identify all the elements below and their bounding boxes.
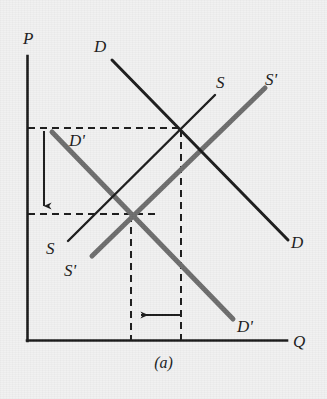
demand-label-top: D <box>94 38 106 55</box>
quantity-axis-label: Q <box>293 333 305 350</box>
supply-label-bottom: S <box>46 240 55 257</box>
supply-demand-plot <box>0 0 327 399</box>
price-axis-label: P <box>23 30 33 47</box>
shift-arrows <box>44 131 180 315</box>
economics-figure: P Q D D S S D' D' S' S' (a) <box>0 0 327 399</box>
supply-shifted-label-top: S' <box>265 71 277 88</box>
guide-lines <box>28 128 182 340</box>
supply-shifted-label-bottom: S' <box>64 262 76 279</box>
supply-label-top: S <box>216 74 225 91</box>
supply-shifted-curve <box>92 88 265 256</box>
demand-shifted-label-bottom: D' <box>237 318 253 335</box>
demand-shifted-curve <box>52 132 233 319</box>
figure-caption: (a) <box>0 355 327 371</box>
demand-shifted-label-top: D' <box>69 132 85 149</box>
demand-label-bottom: D <box>291 234 303 251</box>
shifted-curves <box>52 88 265 319</box>
